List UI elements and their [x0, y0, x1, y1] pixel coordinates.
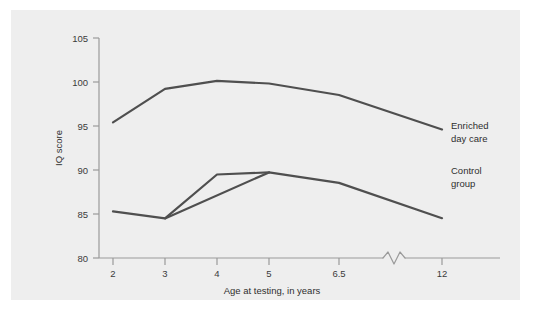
x-tick-label-12: 12	[437, 268, 448, 279]
series-line-control-group	[113, 172, 442, 218]
y-tick-label-80: 80	[77, 253, 88, 264]
series-label-control-line2: group	[451, 178, 475, 189]
series-line-enriched-day-care	[113, 81, 442, 130]
x-axis-title: Age at testing, in years	[224, 285, 321, 296]
series-label-enriched-line2: day care	[451, 133, 487, 144]
figure-container: 105 100 95 90 85 80 2 3 4 5 6.5 12 Age a…	[0, 0, 545, 316]
line-chart: 105 100 95 90 85 80 2 3 4 5 6.5 12 Age a…	[0, 0, 545, 316]
x-tick-label-2: 2	[110, 268, 115, 279]
y-tick-label-90: 90	[77, 165, 88, 176]
series-label-control-line1: Control	[451, 165, 482, 176]
x-tick-label-5: 5	[266, 268, 271, 279]
y-tick-label-100: 100	[72, 77, 88, 88]
y-axis-title: IQ score	[53, 130, 64, 166]
x-tick-label-3: 3	[162, 268, 167, 279]
y-tick-label-85: 85	[77, 209, 88, 220]
series-label-enriched-line1: Enriched	[451, 120, 489, 131]
y-tick-label-95: 95	[77, 121, 88, 132]
axis-break-zigzag-icon	[383, 252, 405, 264]
x-tick-label-4: 4	[214, 268, 219, 279]
x-tick-label-6-5: 6.5	[332, 268, 345, 279]
y-tick-label-105: 105	[72, 33, 88, 44]
y-axis-ticks	[93, 38, 99, 258]
